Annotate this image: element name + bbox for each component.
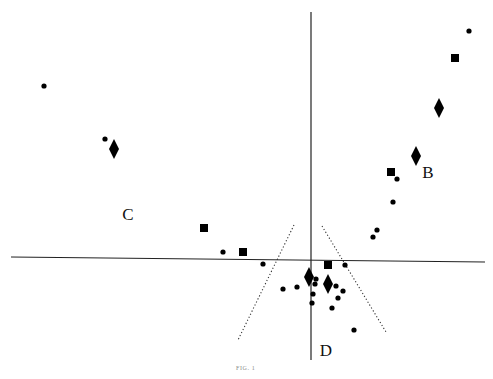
square-marker <box>239 248 247 256</box>
circle-marker <box>309 300 314 305</box>
circle-marker <box>466 28 471 33</box>
square-marker <box>200 224 208 232</box>
figure-background <box>0 0 493 379</box>
circle-marker <box>260 261 265 266</box>
circle-marker <box>220 249 225 254</box>
square-marker <box>324 261 332 269</box>
circle-marker <box>342 262 347 267</box>
circle-marker <box>41 83 46 88</box>
circle-marker <box>351 327 356 332</box>
region-label-c: C <box>122 205 133 224</box>
circle-marker <box>102 136 107 141</box>
circle-marker <box>294 284 299 289</box>
scatter-figure: BCD FIG. 1 <box>0 0 493 379</box>
circle-marker <box>374 227 379 232</box>
square-marker <box>451 54 459 62</box>
circle-marker <box>370 234 375 239</box>
circle-marker <box>333 283 338 288</box>
circle-marker <box>340 288 345 293</box>
square-marker <box>387 168 395 176</box>
region-label-b: B <box>422 163 433 182</box>
circle-marker <box>390 199 395 204</box>
circle-marker <box>394 176 399 181</box>
circle-marker <box>280 286 285 291</box>
circle-marker <box>312 281 317 286</box>
circle-marker <box>313 276 318 281</box>
circle-marker <box>310 291 315 296</box>
region-label-d: D <box>320 341 332 360</box>
figure-caption: FIG. 1 <box>236 365 255 371</box>
circle-marker <box>329 305 334 310</box>
circle-marker <box>335 295 340 300</box>
